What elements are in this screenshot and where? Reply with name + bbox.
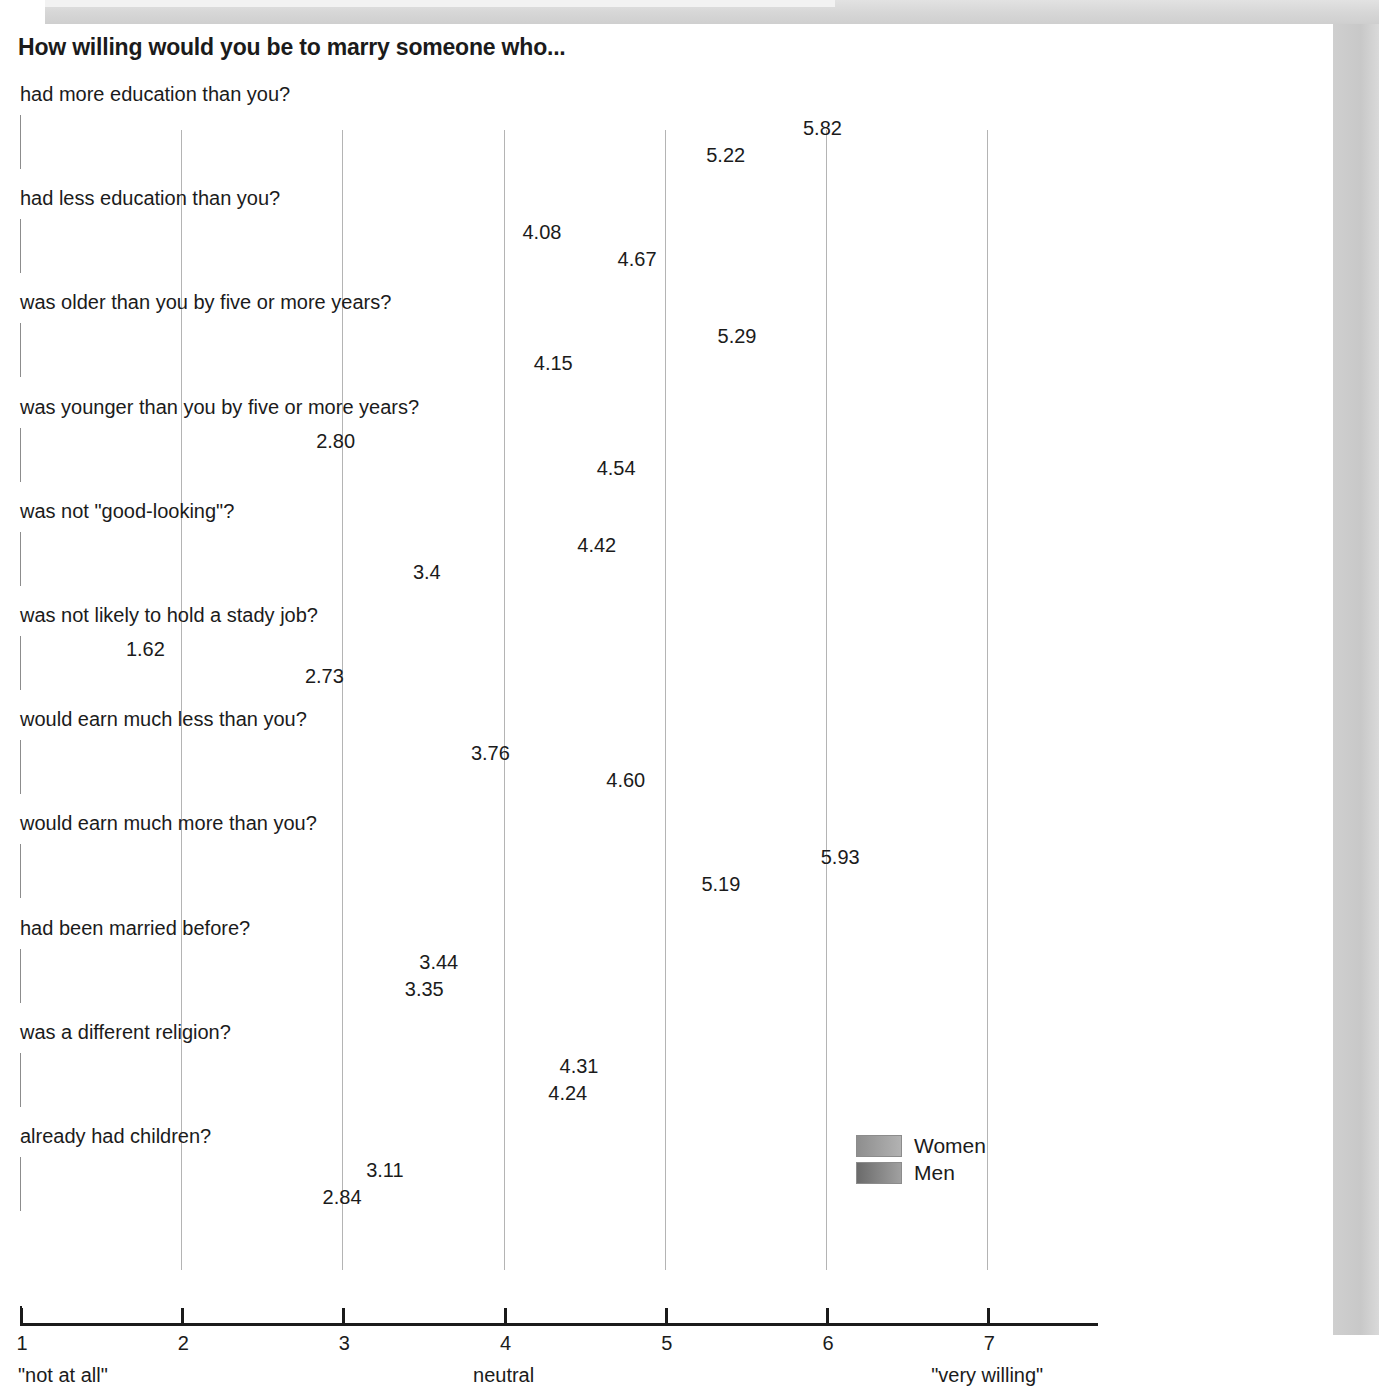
plot-area: had more education than you?5.825.22had …	[0, 70, 1333, 1250]
bar-men	[20, 1184, 317, 1211]
axis-anchor-1: "not at all"	[18, 1364, 108, 1387]
legend-item-men: Men	[856, 1159, 986, 1186]
tick-4	[504, 1308, 507, 1324]
bar-women	[20, 1053, 554, 1080]
bar-value-label: 4.08	[522, 221, 561, 244]
category-label: already had children?	[20, 1125, 211, 1148]
bar-rect	[20, 1184, 21, 1211]
bar-rect	[20, 767, 21, 794]
bar-value-label: 4.31	[560, 1055, 599, 1078]
bar-value-label: 3.11	[366, 1159, 403, 1182]
category-label: was not likely to hold a stady job?	[20, 604, 318, 627]
bar-group: was not likely to hold a stady job?1.622…	[0, 604, 1333, 690]
bar-men	[20, 559, 407, 586]
bar-women	[20, 1157, 360, 1184]
bar-men	[20, 663, 299, 690]
bar-men	[20, 350, 528, 377]
tick-label-2: 2	[178, 1332, 189, 1355]
bar-women	[20, 740, 465, 767]
bar-value-label: 3.35	[405, 978, 444, 1001]
bar-value-label: 5.19	[701, 873, 740, 896]
bar-value-label: 4.24	[548, 1082, 587, 1105]
bar-rect	[20, 663, 21, 690]
bar-value-label: 3.44	[419, 951, 458, 974]
bar-women	[20, 219, 516, 246]
bar-value-label: 5.29	[718, 325, 757, 348]
bar-value-label: 4.15	[534, 352, 573, 375]
category-label: was older than you by five or more years…	[20, 291, 391, 314]
bar-men	[20, 142, 700, 169]
bar-value-label: 5.93	[821, 846, 860, 869]
bar-value-label: 4.54	[597, 457, 636, 480]
bar-value-label: 5.22	[706, 144, 745, 167]
bar-group: was older than you by five or more years…	[0, 291, 1333, 377]
bar-value-label: 2.84	[323, 1186, 362, 1209]
bar-women	[20, 532, 571, 559]
tick-label-1: 1	[16, 1332, 27, 1355]
bar-rect	[20, 559, 21, 586]
tick-5	[665, 1308, 668, 1324]
bar-rect	[20, 1053, 21, 1080]
category-label: had less education than you?	[20, 187, 280, 210]
bar-men	[20, 767, 600, 794]
bar-rect	[20, 532, 21, 559]
bar-group: would earn much less than you?3.764.60	[0, 708, 1333, 794]
axis-anchor-7: "very willing"	[931, 1364, 1043, 1387]
bar-rect	[20, 115, 21, 142]
tick-6	[826, 1308, 829, 1324]
bar-women	[20, 949, 413, 976]
tick-label-7: 7	[984, 1332, 995, 1355]
legend-swatch-men	[856, 1162, 902, 1184]
bar-men	[20, 455, 591, 482]
bar-rect	[20, 142, 21, 169]
page-shadow-right-band	[1333, 24, 1379, 1335]
bar-rect	[20, 455, 21, 482]
category-label: would earn much less than you?	[20, 708, 307, 731]
bar-men	[20, 976, 399, 1003]
bar-value-label: 5.82	[803, 117, 842, 140]
bar-rect	[20, 1080, 21, 1107]
category-label: was not "good-looking"?	[20, 500, 234, 523]
tick-7	[987, 1308, 990, 1324]
bar-group: had more education than you?5.825.22	[0, 83, 1333, 169]
bar-men	[20, 1080, 542, 1107]
bar-women	[20, 115, 797, 142]
bar-group: would earn much more than you?5.935.19	[0, 812, 1333, 898]
bar-value-label: 4.60	[606, 769, 645, 792]
bar-group: had been married before?3.443.35	[0, 917, 1333, 1003]
category-label: would earn much more than you?	[20, 812, 317, 835]
bar-rect	[20, 246, 21, 273]
bar-men	[20, 246, 612, 273]
bar-value-label: 4.67	[618, 248, 657, 271]
bar-women	[20, 428, 310, 455]
category-label: had been married before?	[20, 917, 250, 940]
tick-1	[20, 1308, 23, 1324]
tick-label-6: 6	[822, 1332, 833, 1355]
tick-label-5: 5	[661, 1332, 672, 1355]
bar-chart: How willing would you be to marry someon…	[0, 24, 1333, 1335]
bar-value-label: 4.42	[577, 534, 616, 557]
bar-rect	[20, 636, 21, 663]
bar-group: was a different religion?4.314.24	[0, 1021, 1333, 1107]
axis-anchor-4: neutral	[473, 1364, 534, 1387]
bar-rect	[20, 350, 21, 377]
legend-label-women: Women	[914, 1134, 986, 1158]
chart-title: How willing would you be to marry someon…	[18, 34, 566, 61]
bar-rect	[20, 1157, 21, 1184]
bar-rect	[20, 976, 21, 1003]
bar-value-label: 3.76	[471, 742, 510, 765]
bar-group: was not "good-looking"?4.423.4	[0, 500, 1333, 586]
bar-rect	[20, 740, 21, 767]
bar-women	[20, 636, 120, 663]
tick-label-4: 4	[500, 1332, 511, 1355]
bar-group: already had children?3.112.84	[0, 1125, 1333, 1211]
bar-rect	[20, 871, 21, 898]
legend-swatch-women	[856, 1135, 902, 1157]
bar-rect	[20, 323, 21, 350]
tick-label-3: 3	[339, 1332, 350, 1355]
category-label: was younger than you by five or more yea…	[20, 396, 419, 419]
bar-group: was younger than you by five or more yea…	[0, 396, 1333, 482]
bar-rect	[20, 428, 21, 455]
bar-men	[20, 871, 695, 898]
category-label: had more education than you?	[20, 83, 290, 106]
